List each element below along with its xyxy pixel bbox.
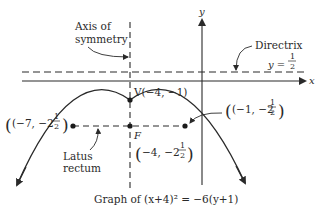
parabola-curve — [17, 89, 245, 185]
vertex-point — [127, 97, 132, 102]
directrix-fraction-num: 1 — [290, 52, 295, 61]
parabola-left-arrow — [17, 167, 26, 185]
axis-of-symmetry-label-line2: symmetry — [75, 33, 128, 45]
parabola-right-arrow — [236, 166, 245, 183]
vertex-label: V(−4, −1) — [133, 86, 187, 98]
right-endpoint-frac-num: 1 — [270, 98, 275, 107]
latus-left-point — [70, 123, 75, 128]
latus-rectum-label-line2: rectum — [63, 162, 101, 174]
directrix-equation-lhs: y = — [267, 59, 285, 70]
latus-rectum-pointer-arrow — [90, 129, 98, 150]
focus-coord-prefix: −4, −2 — [142, 146, 180, 158]
left-endpoint-open-paren: ( — [5, 115, 12, 135]
focus-frac-den: 2 — [180, 151, 185, 160]
latus-right-point — [182, 123, 187, 128]
y-axis-label: y — [198, 6, 205, 17]
directrix-pointer-arrow — [236, 46, 252, 70]
parabola-diagram: x y Axis of symmetry Directrix y = 1 2 V… — [0, 0, 325, 217]
focus-frac-num: 1 — [180, 141, 185, 150]
left-endpoint-frac-num: 1 — [54, 112, 59, 121]
axis-of-symmetry-label-line1: Axis of — [74, 20, 112, 32]
graph-caption: Graph of (x+4)² = −6(y+1) — [94, 193, 238, 205]
right-endpoint-frac-den: 2 — [270, 108, 275, 117]
latus-rectum-label-line1: Latus — [63, 150, 93, 162]
right-endpoint-close-paren: ) — [278, 101, 285, 121]
focus-label: F — [133, 130, 142, 141]
focus-coord-close-paren: ) — [187, 144, 194, 164]
directrix-fraction-den: 2 — [290, 62, 295, 71]
left-endpoint-prefix: (−7, −2 — [12, 117, 54, 129]
focus-coord-open-paren: ( — [135, 144, 142, 164]
x-axis-label: x — [309, 75, 315, 86]
right-endpoint-open-paren: ( — [225, 101, 232, 121]
axis-of-symmetry-pointer-arrow — [88, 47, 128, 57]
left-endpoint-close-paren: ) — [62, 115, 69, 135]
focus-point — [127, 123, 132, 128]
directrix-label: Directrix — [255, 39, 302, 51]
right-endpoint-prefix: (−1, −2 — [232, 103, 274, 115]
left-endpoint-frac-den: 2 — [54, 122, 59, 131]
